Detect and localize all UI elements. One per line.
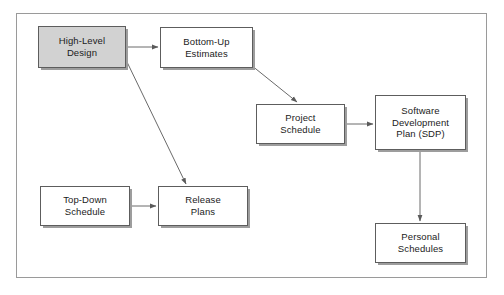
- node-top-down-schedule[interactable]: Top-Down Schedule: [40, 186, 130, 226]
- node-label-top-down-schedule: Top-Down Schedule: [63, 194, 107, 217]
- node-label-software-development-plan: Software Development Plan (SDP): [392, 105, 449, 140]
- node-label-high-level-design: High-Level Design: [59, 35, 105, 58]
- node-personal-schedules[interactable]: Personal Schedules: [375, 223, 466, 263]
- flow-diagram-figure: High-Level Design Bottom-Up Estimates Pr…: [0, 0, 504, 295]
- node-high-level-design[interactable]: High-Level Design: [38, 26, 126, 68]
- node-label-bottom-up-estimates: Bottom-Up Estimates: [183, 36, 229, 59]
- node-bottom-up-estimates[interactable]: Bottom-Up Estimates: [160, 27, 253, 68]
- node-label-personal-schedules: Personal Schedules: [398, 231, 443, 254]
- node-software-development-plan[interactable]: Software Development Plan (SDP): [375, 95, 466, 150]
- node-label-project-schedule: Project Schedule: [280, 112, 320, 135]
- node-release-plans[interactable]: Release Plans: [158, 186, 248, 226]
- node-project-schedule[interactable]: Project Schedule: [256, 104, 345, 144]
- node-label-release-plans: Release Plans: [185, 194, 221, 217]
